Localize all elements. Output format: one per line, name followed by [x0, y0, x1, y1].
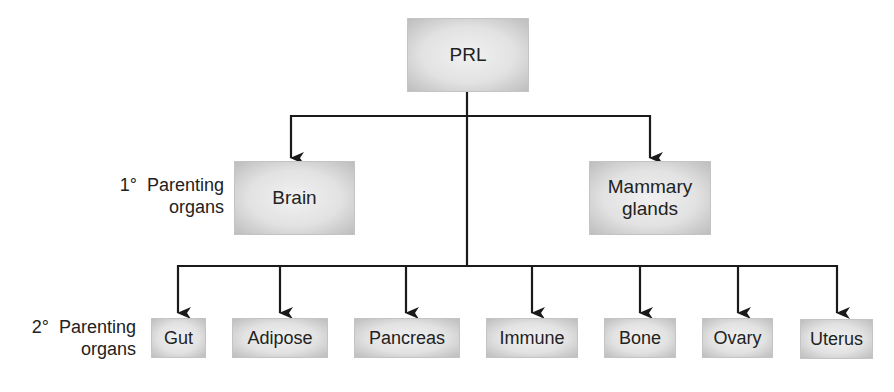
- node-prl-label: PRL: [450, 44, 487, 66]
- node-pancreas-label: Pancreas: [369, 327, 445, 349]
- node-mammary-glands: Mammary glands: [589, 161, 711, 235]
- node-bone-label: Bone: [619, 327, 661, 349]
- node-gut-label: Gut: [164, 327, 193, 349]
- node-brain-label: Brain: [272, 187, 316, 209]
- node-mammary-line1: Mammary: [608, 176, 692, 198]
- secondary-row-label: 2°Parenting organs: [0, 316, 136, 360]
- node-bone: Bone: [604, 318, 676, 358]
- secondary-line1: Parenting: [59, 317, 136, 337]
- node-immune: Immune: [486, 318, 578, 358]
- node-ovary: Ovary: [702, 318, 773, 358]
- primary-prefix: 1°: [120, 175, 137, 195]
- node-adipose: Adipose: [232, 318, 328, 358]
- node-immune-label: Immune: [499, 327, 564, 349]
- node-uterus-label: Uterus: [810, 328, 863, 350]
- node-ovary-label: Ovary: [713, 327, 761, 349]
- node-brain: Brain: [234, 161, 355, 235]
- node-adipose-label: Adipose: [247, 327, 312, 349]
- node-uterus: Uterus: [800, 319, 873, 359]
- node-pancreas: Pancreas: [354, 318, 460, 358]
- primary-row-label: 1°Parenting organs: [60, 174, 224, 218]
- secondary-prefix: 2°: [32, 317, 49, 337]
- primary-line1: Parenting: [147, 175, 224, 195]
- primary-line2: organs: [60, 196, 224, 218]
- secondary-line2: organs: [0, 338, 136, 360]
- node-gut: Gut: [151, 318, 206, 358]
- node-prl: PRL: [407, 18, 529, 92]
- node-mammary-line2: glands: [622, 198, 678, 220]
